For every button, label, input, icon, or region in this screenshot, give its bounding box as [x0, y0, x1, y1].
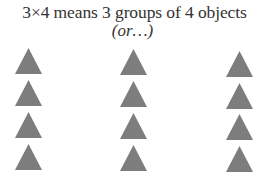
triangle-icon	[226, 114, 253, 140]
triangle-icon	[226, 146, 253, 172]
triangle-icon	[15, 112, 42, 138]
triangle-icon	[15, 144, 42, 170]
triangle-icon	[120, 49, 147, 75]
triangle-icon	[15, 80, 42, 106]
triangle-icon	[120, 81, 147, 107]
group-2	[120, 0, 148, 182]
triangle-icon	[120, 113, 147, 139]
group-1	[15, 0, 43, 182]
triangle-icon	[226, 51, 253, 77]
triangle-icon	[15, 48, 42, 74]
triangle-icon	[120, 145, 147, 171]
group-3	[226, 0, 254, 182]
triangle-icon	[226, 83, 253, 109]
